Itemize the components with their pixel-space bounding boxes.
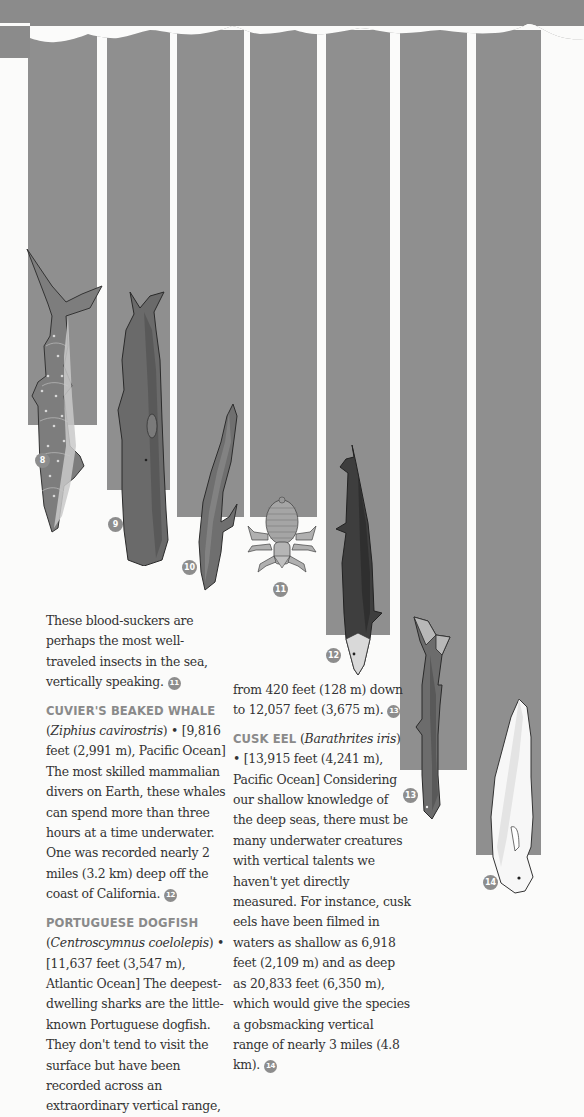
reference-badge-8: 8: [35, 453, 50, 468]
sea-insect-illustration: [246, 496, 318, 578]
reference-badge-14: 14: [483, 875, 498, 890]
insects-paragraph: These blood-suckers are perhaps the most…: [46, 611, 226, 693]
cuvier-heading: CUVIER'S BEAKED WHALE: [46, 701, 226, 721]
cusk-eel-scientific-name: Barathrites iris: [305, 731, 396, 746]
dogfish-scientific-name: Centroscymnus coelolepis: [51, 935, 209, 950]
dogfish-continued-text: from 420 feet (128 m) down to 12,057 fee…: [233, 682, 403, 717]
cuvier-scientific-name: Ziphius cavirostris: [51, 723, 163, 738]
sea-surface-wave: [0, 18, 584, 58]
cuvier-description: • [9,816 feet (2,991 m), Pacific Ocean] …: [46, 723, 226, 901]
portuguese-dogfish-illustration: [410, 615, 458, 820]
dogfish-continued-paragraph: from 420 feet (128 m) down to 12,057 fee…: [233, 680, 411, 721]
dogfish-description: • [11,637 feet (3,547 m), Atlantic Ocean…: [46, 935, 224, 1113]
reference-badge-10: 10: [182, 560, 197, 575]
reference-badge-inline-11: 11: [168, 677, 181, 690]
dogfish-paragraph: PORTUGUESE DOGFISH(Centroscymnus coelole…: [46, 913, 226, 1117]
beaked-whale-illustration: [193, 402, 243, 592]
cusk-eel-illustration: [487, 697, 537, 895]
reference-badge-9: 9: [108, 517, 123, 532]
text-column-middle: from 420 feet (128 m) down to 12,057 fee…: [233, 680, 411, 1084]
cusk-eel-description: • [13,915 feet (4,241 m), Pacific Ocean]…: [233, 751, 411, 1072]
reference-badge-inline-13: 13: [387, 705, 400, 718]
text-column-left: These blood-suckers are perhaps the most…: [46, 611, 226, 1117]
cusk-eel-heading: CUSK EEL: [233, 732, 296, 746]
whale-shark-illustration: [24, 246, 106, 536]
cuvier-paragraph: CUVIER'S BEAKED WHALE(Ziphius cavirostri…: [46, 701, 226, 905]
depth-bar-11: [250, 30, 317, 517]
reference-badge-12: 12: [326, 648, 341, 663]
cusk-eel-paragraph: CUSK EEL (Barathrites iris) • [13,915 fe…: [233, 729, 411, 1076]
sperm-whale-illustration: [116, 290, 174, 566]
insects-text: These blood-suckers are perhaps the most…: [46, 613, 208, 689]
reference-badge-11: 11: [273, 582, 288, 597]
reference-badge-inline-14: 14: [264, 1060, 277, 1073]
pale-headed-whale-illustration: [332, 443, 382, 677]
reference-badge-inline-12: 12: [164, 889, 177, 902]
dogfish-heading: PORTUGUESE DOGFISH: [46, 913, 226, 933]
